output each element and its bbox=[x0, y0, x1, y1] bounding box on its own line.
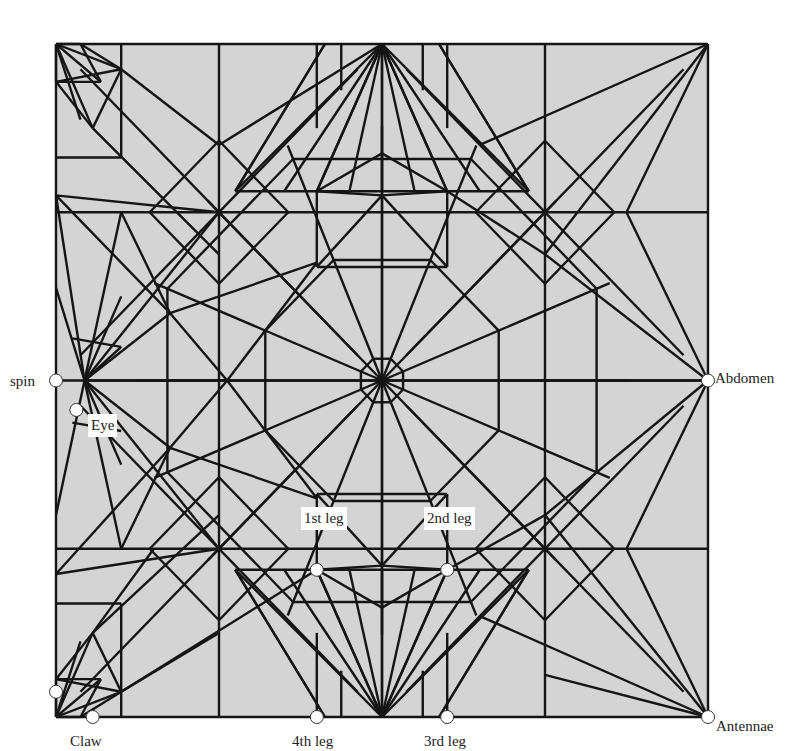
label-1st-leg: 1st leg bbox=[301, 507, 347, 530]
crease-lines bbox=[56, 44, 708, 717]
label-2nd-leg: 2nd leg bbox=[424, 507, 475, 530]
flap-marker-3rd-leg bbox=[441, 711, 454, 724]
label-claw: Claw bbox=[70, 734, 102, 749]
flap-marker-claw-b bbox=[86, 711, 99, 724]
flap-marker-spin bbox=[50, 374, 63, 387]
label-antennae: Antennae bbox=[716, 719, 773, 734]
flap-marker-4th-leg bbox=[310, 711, 323, 724]
label-spin: spin bbox=[10, 374, 35, 389]
flap-marker-eye bbox=[70, 403, 83, 416]
label-4th-leg: 4th leg bbox=[292, 734, 333, 749]
label-abdomen: Abdomen bbox=[715, 371, 774, 386]
flap-marker-abdomen bbox=[702, 374, 715, 387]
flap-marker-antennae bbox=[702, 711, 715, 724]
crease-pattern-diagram bbox=[0, 0, 803, 751]
flap-marker-2nd-leg bbox=[441, 563, 454, 576]
flap-marker-1st-leg bbox=[310, 563, 323, 576]
label-eye: Eye bbox=[88, 414, 117, 437]
flap-marker-claw-a bbox=[50, 685, 63, 698]
label-3rd-leg: 3rd leg bbox=[424, 734, 466, 749]
